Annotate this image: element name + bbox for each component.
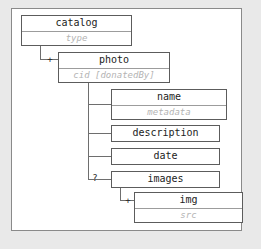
- node-catalog[interactable]: catalog type: [21, 15, 132, 46]
- node-photo[interactable]: photo cid [donatedBy]: [58, 52, 170, 83]
- node-name[interactable]: name metadata: [111, 89, 227, 120]
- node-images-title: images: [112, 172, 219, 187]
- node-photo-title: photo: [59, 53, 169, 68]
- diagram-frame: + ? + catalog type photo cid [donatedBy]…: [11, 8, 242, 231]
- node-date-title: date: [112, 149, 219, 164]
- node-name-subtitle: metadata: [112, 105, 226, 119]
- node-img-subtitle: src: [135, 208, 242, 222]
- node-images[interactable]: images: [111, 171, 220, 188]
- node-img[interactable]: img src: [134, 192, 243, 223]
- node-description[interactable]: description: [111, 125, 220, 142]
- node-catalog-subtitle: type: [22, 31, 131, 45]
- cardinality-marker-photo: +: [45, 54, 55, 64]
- cardinality-marker-images: ?: [90, 173, 100, 183]
- node-catalog-title: catalog: [22, 16, 131, 31]
- node-img-title: img: [135, 193, 242, 208]
- node-name-title: name: [112, 90, 226, 105]
- connector-photo-to-name: [88, 104, 111, 105]
- node-date[interactable]: date: [111, 148, 220, 165]
- connector-photo-to-description: [88, 133, 111, 134]
- connector-photo-spine: [88, 81, 89, 180]
- cardinality-marker-img: +: [123, 195, 133, 205]
- node-description-title: description: [112, 126, 219, 141]
- node-photo-subtitle: cid [donatedBy]: [59, 68, 169, 82]
- connector-photo-to-date: [88, 156, 111, 157]
- connector-images-down: [120, 187, 121, 200]
